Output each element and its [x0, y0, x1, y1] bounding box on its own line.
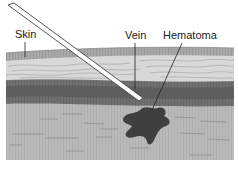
skin-label: Skin [15, 28, 36, 40]
vein-label: Vein [125, 29, 146, 41]
subcutaneous-layer [6, 103, 234, 160]
hematoma-diagram: Skin Vein Hematoma [0, 0, 238, 170]
hematoma-label: Hematoma [163, 29, 218, 41]
